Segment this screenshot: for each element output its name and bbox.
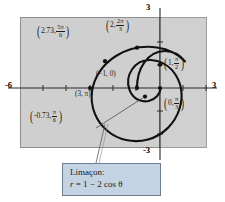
point-theta-num: 2π [116,18,124,25]
figure-root: -6 3 3 -3 ( 2.73, 5π 6 ) ( 2, 2π 3 ) ( [0,0,225,202]
point-label-3-pi: (3, π) [75,91,91,98]
point-theta-den: 3 [174,103,179,111]
callout-equation: r = 1 − 2 cos θ [70,179,160,189]
point-marker-neg0.73-pi-6 [143,95,147,99]
callout-equation-rest: = 1 − 2 cos [76,179,116,189]
point-label-2-2pi-3: ( 2, 2π 3 ) [105,17,130,33]
point-theta-den: 2 [174,63,179,71]
point-theta-num: 5π [56,24,64,31]
point-theta-num: π [174,56,179,63]
callout-equation-theta: θ [118,179,122,189]
point-label-0-pi-3: ( 0, π 3 ) [163,95,185,111]
point-marker-1-pi-2 [158,63,162,67]
point-label-neg0.73-pi-6: ( -0.73, π 6 ) [29,108,63,124]
point-theta-num: π [174,96,179,103]
point-theta-den: 6 [56,31,64,39]
x-axis-right-label: 3 [212,80,216,90]
x-axis-left-label: -6 [5,80,12,90]
y-axis-bottom-label: -3 [143,145,150,155]
point-label-2.73-5pi-6: ( 2.73, 5π 6 ) [36,23,70,39]
point-marker-0-pi-3 [158,86,162,90]
point-marker-2-2pi-3 [135,46,139,50]
point-label-neg1-0: (−1, 0) [96,71,116,78]
leader-line-inner-loop [96,98,144,129]
point-theta-num: π [52,109,57,116]
callout-box: Limaçon: r = 1 − 2 cos θ [62,163,161,196]
point-theta-den: 3 [116,25,124,33]
point-marker-neg1-0 [135,86,139,90]
point-label-1-pi-2: ( 1, π 2 ) [163,55,185,71]
point-theta-den: 6 [52,116,57,124]
y-axis-top-label: 3 [146,2,150,12]
point-r-value: -0.73 [34,112,49,119]
point-r-value: 2.73 [41,27,54,34]
callout-equation-r: r [70,179,74,189]
point-marker-2.73-5pi-6 [103,59,107,63]
callout-title: Limaçon: [70,167,160,177]
